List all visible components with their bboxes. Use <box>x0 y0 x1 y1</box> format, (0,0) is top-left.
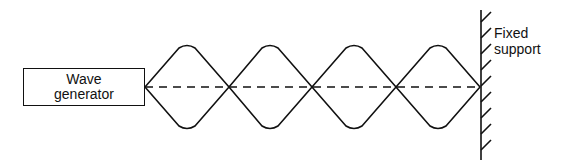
wave-generator-box: Wave generator <box>23 68 145 106</box>
fixed-support-label: Fixed support <box>494 25 541 57</box>
wave-generator-label-line1: Wave <box>66 72 101 87</box>
fixed-support-label-line2: support <box>494 41 541 57</box>
fixed-support-wall <box>481 10 491 160</box>
fixed-support-label-line1: Fixed <box>494 25 541 41</box>
wave-generator-label-line2: generator <box>54 87 114 102</box>
